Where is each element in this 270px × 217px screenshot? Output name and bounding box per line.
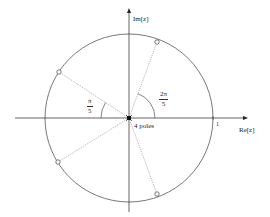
poles-label: 4 poles <box>134 123 154 130</box>
zero-marker-icon <box>57 70 61 74</box>
fraction-numerator: π <box>87 98 93 107</box>
diagram-canvas <box>0 0 270 217</box>
real-axis-label: Re[z] <box>239 127 255 134</box>
fraction-denominator: 5 <box>162 100 166 108</box>
zero-marker-icon <box>155 192 159 196</box>
zero-marker-icon <box>56 160 60 164</box>
angle-arc-2pi-over-5 <box>138 94 155 118</box>
real-axis-arrow-icon <box>243 116 248 120</box>
angle-arc-pi-over-5 <box>101 103 106 118</box>
zero-marker-icon <box>155 40 159 44</box>
unit-tick-label: 1 <box>216 121 219 127</box>
imaginary-axis-label: Im[z] <box>133 16 149 23</box>
angle-label-pi-over-5: π 5 <box>87 98 93 115</box>
imaginary-axis-arrow-icon <box>127 8 131 13</box>
fraction-numerator: 2π <box>159 91 168 100</box>
pole-zero-diagram: Im[z] Re[z] 1 4 poles π 5 2π 5 <box>0 0 270 217</box>
angle-label-2pi-over-5: 2π 5 <box>159 91 168 108</box>
fraction-denominator: 5 <box>88 107 92 115</box>
